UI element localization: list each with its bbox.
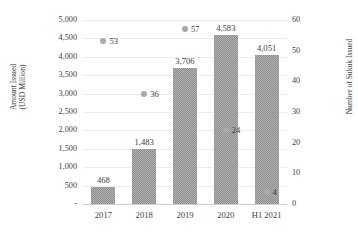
y-axis-left-title: Amount Issued (USD Million) xyxy=(9,37,27,137)
y-axis-right-ticks: 6050403020100 xyxy=(292,0,322,236)
bar-2020[interactable] xyxy=(214,35,238,204)
bar-2018[interactable] xyxy=(132,149,156,204)
scatter-marker-2017[interactable] xyxy=(100,38,106,44)
scatter-data-label: 24 xyxy=(232,125,241,135)
bar-2019[interactable] xyxy=(173,68,197,204)
y-axis-left-tick-label: 4,000 xyxy=(35,52,77,61)
y-axis-left-tick-label: 2,000 xyxy=(35,125,77,134)
x-axis-label-h1-2021: H1 2021 xyxy=(237,210,297,220)
x-axis-line xyxy=(83,204,287,205)
y-axis-left-tick-label: 1,000 xyxy=(35,162,77,171)
bar-data-label: 468 xyxy=(73,175,133,185)
y-axis-left-tick-label: 3,000 xyxy=(35,89,77,98)
y-axis-left-tick-label: 5,000 xyxy=(35,15,77,24)
scatter-marker-2019[interactable] xyxy=(182,26,188,32)
y-axis-left-title-line2: (USD Million) xyxy=(18,37,27,137)
plot-area: 4681,4833,7064,5834,051533657244 xyxy=(83,20,287,204)
y-axis-right-tick-label: 60 xyxy=(292,15,322,24)
y-axis-right-title: Number of Sukuk Issued xyxy=(345,22,354,132)
y-axis-right-tick-label: 0 xyxy=(292,199,322,208)
bar-h1-2021[interactable] xyxy=(255,55,279,204)
y-axis-left-title-line1: Amount Issued xyxy=(9,37,18,137)
bar-data-label: 1,483 xyxy=(114,137,174,147)
y-axis-left-tick-label: 2,500 xyxy=(35,107,77,116)
scatter-marker-2018[interactable] xyxy=(141,91,147,97)
y-axis-left-tick-label: 1,500 xyxy=(35,144,77,153)
scatter-data-label: 4 xyxy=(273,187,277,197)
scatter-data-label: 53 xyxy=(109,36,118,46)
y-axis-left-tick-label: 500 xyxy=(35,181,77,190)
y-axis-right-tick-label: 10 xyxy=(292,168,322,177)
chart-container: Amount Issued (USD Million) Number of Su… xyxy=(0,0,358,236)
bar-data-label: 4,051 xyxy=(237,43,297,53)
gridline xyxy=(83,20,287,21)
y-axis-left-tick-label: - xyxy=(35,199,77,208)
y-axis-right-tick-label: 30 xyxy=(292,107,322,116)
bar-2017[interactable] xyxy=(91,187,115,204)
scatter-data-label: 57 xyxy=(191,24,200,34)
y-axis-left-tick-label: 3,500 xyxy=(35,70,77,79)
bar-data-label: 3,706 xyxy=(155,56,215,66)
scatter-marker-h1-2021[interactable] xyxy=(264,189,270,195)
y-axis-left-ticks: 5,0004,5004,0003,5003,0002,5002,0001,500… xyxy=(33,0,77,236)
y-axis-right-tick-label: 20 xyxy=(292,138,322,147)
bar-data-label: 4,583 xyxy=(196,23,256,33)
y-axis-left-tick-label: 4,500 xyxy=(35,33,77,42)
y-axis-right-tick-label: 40 xyxy=(292,76,322,85)
scatter-data-label: 36 xyxy=(150,89,159,99)
